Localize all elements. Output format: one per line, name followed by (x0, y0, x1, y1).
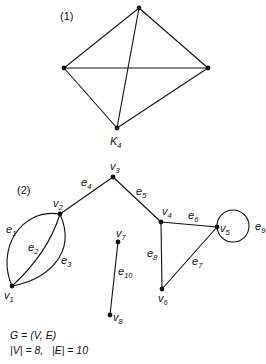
edge-label-e8: e8 (147, 247, 158, 262)
vertex-v2 (58, 212, 63, 217)
edge-label-e9: e9 (255, 220, 266, 235)
edge-label-e10: e10 (118, 265, 133, 280)
k4-vertex (206, 66, 211, 71)
edge-label-e2: e2 (28, 241, 39, 256)
edge-e6 (161, 222, 217, 227)
edge-label-e4: e4 (81, 176, 91, 191)
vertex-v6 (160, 287, 165, 292)
edge-label-e7: e7 (192, 255, 203, 270)
graph-g: v1 v2 v3 v4 v5 v6 v7 v8 e1 e2 e3 e4 e5 e… (4, 160, 266, 326)
vertex-label-v1: v1 (4, 289, 14, 304)
edge-label-e6: e6 (188, 209, 199, 224)
vertex-label-v3: v3 (110, 160, 121, 175)
k4-label: K4 (110, 135, 122, 150)
vertex-v4 (159, 220, 164, 225)
k4-vertex (62, 66, 67, 71)
vertex-label-v2: v2 (53, 197, 64, 212)
vertex-label-v6: v6 (158, 292, 169, 307)
vertex-v1 (10, 284, 15, 289)
graph-diagram: (1) K4 (2) v1 v2 (0, 0, 266, 364)
edge-e5 (113, 177, 161, 222)
figure-1-label: (1) (60, 10, 73, 22)
edge-e10 (110, 242, 118, 315)
edge-e8 (161, 222, 162, 289)
vertex-v3 (111, 175, 116, 180)
k4-edge (117, 68, 208, 128)
vertex-v7 (116, 240, 121, 245)
edge-label-e1: e1 (6, 223, 16, 238)
vertex-label-v5: v5 (220, 222, 231, 237)
edge-e3 (12, 214, 65, 286)
vertex-label-v4: v4 (162, 205, 172, 220)
k4-vertex (137, 6, 142, 11)
edge-e7 (162, 227, 217, 289)
vertex-v8 (108, 313, 113, 318)
graph-cardinality: |V| = 8, |E| = 10 (10, 344, 88, 356)
edge-label-e3: e3 (61, 254, 72, 269)
k4-graph (62, 6, 211, 131)
graph-definition: G = (V, E) (10, 329, 56, 341)
k4-edge (64, 68, 117, 128)
k4-edge (64, 8, 139, 68)
vertex-label-v8: v8 (113, 311, 124, 326)
k4-edge (139, 8, 208, 68)
figure-2-label: (2) (17, 184, 30, 196)
vertex-v5 (215, 225, 220, 230)
edge-label-e5: e5 (136, 185, 147, 200)
k4-vertex (115, 126, 120, 131)
